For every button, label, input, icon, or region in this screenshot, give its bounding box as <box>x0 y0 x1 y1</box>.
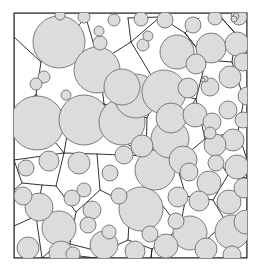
packed-disk <box>108 14 120 26</box>
packed-disk <box>111 188 127 204</box>
packed-disk <box>143 31 153 41</box>
packed-disk <box>225 32 249 56</box>
packed-disk <box>102 165 118 181</box>
packed-disk <box>208 11 222 25</box>
packed-disk <box>115 146 133 164</box>
voronoi-diagram <box>0 0 264 272</box>
packed-disk <box>204 127 216 139</box>
packed-disk <box>18 160 34 176</box>
packed-disk <box>208 155 224 171</box>
packed-disk <box>68 152 90 174</box>
packed-disk <box>178 78 198 98</box>
packed-disk <box>83 201 101 219</box>
packed-disk <box>94 26 104 36</box>
voronoi-figure-root <box>0 0 264 272</box>
packed-disk <box>225 155 249 179</box>
packed-disk <box>39 151 59 171</box>
packed-disk <box>125 241 145 261</box>
packed-disk <box>180 163 198 181</box>
packed-disk <box>93 36 107 50</box>
packed-disk <box>134 12 148 26</box>
packed-disk <box>185 17 201 33</box>
packed-disk <box>102 225 116 239</box>
packed-disk <box>219 101 237 119</box>
packed-disk <box>80 217 96 233</box>
packed-disk <box>201 78 205 82</box>
packed-disk <box>17 237 39 259</box>
packed-disk <box>142 226 158 242</box>
packed-disk <box>157 12 173 28</box>
packed-disk <box>186 54 206 74</box>
packed-disk <box>30 78 42 90</box>
packed-disk <box>231 16 237 22</box>
packed-disk <box>168 187 188 207</box>
packed-disk <box>61 90 71 100</box>
packed-disk <box>195 238 217 260</box>
packed-disk <box>77 183 91 197</box>
packed-disk <box>14 187 32 205</box>
packed-disk <box>10 96 64 150</box>
packed-disk <box>131 135 153 157</box>
packed-disk <box>104 69 140 105</box>
packed-disk <box>168 213 184 229</box>
packed-disk <box>156 103 186 133</box>
packed-disk <box>189 191 209 211</box>
